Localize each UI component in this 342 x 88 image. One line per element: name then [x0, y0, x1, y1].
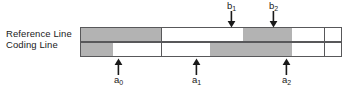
arrow-up-icon-a0: [114, 58, 123, 75]
grid-cell: [325, 27, 342, 42]
grid-cell: [129, 42, 146, 57]
grid-cell: [259, 27, 276, 42]
grid-cell: [96, 27, 113, 42]
grid-cell: [80, 42, 97, 57]
changing-element-diagram: Reference Line Coding Line b1b2 a0a1a2: [0, 0, 342, 88]
arrow-up-icon-a1: [192, 58, 201, 75]
grid-cell: [243, 42, 260, 57]
grid-cell: [194, 42, 211, 57]
annotation-label-b2: b2: [269, 0, 278, 11]
coding-line-row: [80, 42, 341, 57]
grid-cell: [96, 42, 113, 57]
grid-cell: [113, 27, 130, 42]
grid-cell: [129, 27, 146, 42]
annotation-label-a0: a0: [114, 74, 123, 85]
grid-cell: [210, 42, 227, 57]
arrow-down-icon-b2: [269, 11, 278, 28]
grid-cell: [145, 42, 162, 57]
grid-cell: [292, 27, 309, 42]
grid-cell: [80, 27, 97, 42]
grid-cell: [243, 27, 260, 42]
grid-cell: [276, 42, 293, 57]
arrow-up-icon-a2: [282, 58, 291, 75]
reference-line-label: Reference Line: [6, 28, 72, 39]
grid-cell: [162, 42, 179, 57]
grid-cell: [210, 27, 227, 42]
annotation-label-b1: b1: [227, 0, 236, 11]
grid-cell: [259, 42, 276, 57]
grid-cell: [227, 27, 244, 42]
grid-cell: [308, 27, 325, 42]
grid-cell: [325, 42, 342, 57]
arrow-down-icon-b1: [227, 11, 236, 28]
grid-cell: [178, 42, 195, 57]
grid-cell: [113, 42, 130, 57]
pixel-grid: [80, 27, 341, 57]
grid-cell: [308, 42, 325, 57]
grid-cell: [145, 27, 162, 42]
grid-cell: [162, 27, 179, 42]
annotation-label-a1: a1: [192, 74, 201, 85]
grid-cell: [227, 42, 244, 57]
grid-cell: [178, 27, 195, 42]
grid-cell: [292, 42, 309, 57]
grid-cell: [194, 27, 211, 42]
annotation-label-a2: a2: [282, 74, 291, 85]
coding-line-label: Coding Line: [6, 39, 58, 50]
grid-cell: [276, 27, 293, 42]
reference-line-row: [80, 27, 341, 42]
